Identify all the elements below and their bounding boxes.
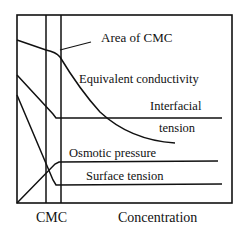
interfacial-tension-label-line1: Interfacial (150, 100, 201, 113)
area-of-cmc-label: Area of CMC (101, 31, 173, 44)
x-axis-title: Concentration (118, 211, 197, 225)
osmotic-pressure-label: Osmotic pressure (69, 147, 156, 160)
surface-tension-label: Surface tension (86, 170, 163, 183)
interfacial-tension-label-line2: tension (159, 122, 195, 135)
area-of-cmc-pointer (60, 42, 91, 50)
x-axis-cmc-label: CMC (36, 211, 67, 225)
equivalent-conductivity-curve (17, 40, 175, 143)
equivalent-conductivity-label: Equivalent conductivity (79, 73, 199, 86)
